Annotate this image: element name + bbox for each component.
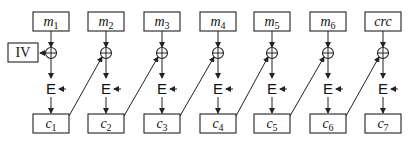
- encrypt-label: E: [267, 80, 277, 97]
- chain-arrow: [180, 57, 214, 116]
- chain-arrow: [69, 57, 102, 116]
- encrypt-label: E: [323, 80, 333, 97]
- encrypt-label: E: [213, 80, 223, 97]
- encrypt-label: E: [378, 80, 388, 97]
- encrypt-label: E: [101, 80, 111, 97]
- iv-label: IV: [16, 45, 31, 60]
- iv-box: IV: [8, 43, 45, 62]
- chain-arrow: [236, 57, 268, 116]
- chain-arrow: [346, 57, 379, 116]
- cbc-diagram: IV m1Ec1m2Ec2m3Ec3m4Ec4m5Ec5m6Ec6crcEc7: [0, 0, 410, 144]
- encrypt-label: E: [46, 80, 56, 97]
- encrypt-label: E: [157, 80, 167, 97]
- input-label: crc: [374, 14, 392, 29]
- chain-arrow: [124, 57, 158, 116]
- chain-arrow: [290, 57, 324, 116]
